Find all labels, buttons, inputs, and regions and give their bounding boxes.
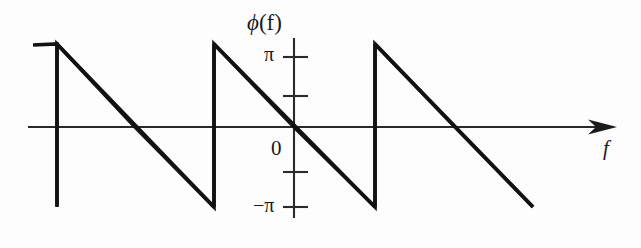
y-tick-label-pi: π — [264, 44, 274, 64]
x-axis-title: f — [603, 138, 609, 159]
waveform-path — [33, 44, 533, 207]
phase-waveform — [33, 44, 533, 207]
x-axis — [28, 120, 617, 135]
ramp-1 — [57, 44, 214, 207]
phi-symbol: ϕ — [247, 10, 259, 35]
ramp-0 — [8, 58, 57, 207]
phase-plot-figure: ϕ(f) π −π 0 f — [0, 0, 641, 248]
ramp-3 — [375, 44, 533, 207]
y-tick-label-neg-pi: −π — [253, 195, 274, 215]
phi-argument: (f) — [259, 10, 282, 35]
y-axis-title: ϕ(f) — [247, 11, 282, 34]
origin-label: 0 — [271, 138, 282, 159]
plot-canvas — [0, 0, 641, 248]
